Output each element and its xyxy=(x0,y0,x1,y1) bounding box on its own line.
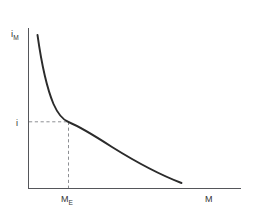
y-axis-label: iM xyxy=(11,28,19,41)
y-axis-label-subscript: M xyxy=(13,34,19,41)
equilibrium-rate-label: i xyxy=(16,118,18,128)
equilibrium-quantity-label: ME xyxy=(61,194,74,206)
x-axis-label: M xyxy=(205,194,213,204)
equilibrium-quantity-label-subscript: E xyxy=(69,199,74,206)
plot-canvas: iM i ME M xyxy=(0,0,257,217)
money-demand-chart: iM i ME M xyxy=(0,0,257,217)
equilibrium-quantity-label-main: M xyxy=(61,194,69,204)
money-demand-curve xyxy=(38,35,182,183)
